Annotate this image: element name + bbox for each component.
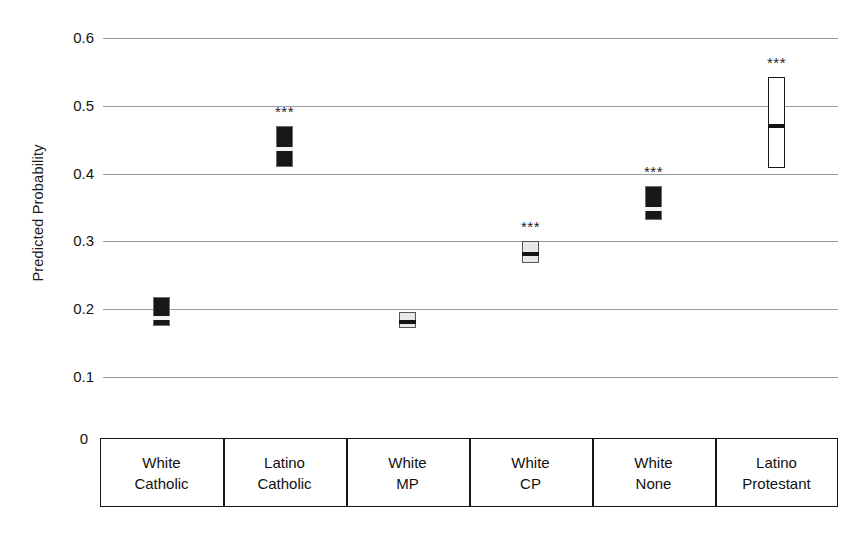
category-divider <box>592 438 594 507</box>
category-labels: WhiteCatholicLatinoCatholicWhiteMPWhiteC… <box>0 0 864 539</box>
category-label-line: White <box>100 452 223 473</box>
category-label: WhiteMP <box>346 452 469 495</box>
category-divider <box>469 438 471 507</box>
category-label: WhiteNone <box>592 452 715 495</box>
category-divider <box>346 438 348 507</box>
category-label-line: Protestant <box>715 473 838 494</box>
category-label-line: Catholic <box>223 473 346 494</box>
category-label-line: White <box>346 452 469 473</box>
category-label: WhiteCatholic <box>100 452 223 495</box>
category-label-line: Catholic <box>100 473 223 494</box>
category-label-line: Latino <box>223 452 346 473</box>
predicted-probability-chart: Predicted Probability 0.60.50.40.30.20.1… <box>0 0 864 539</box>
category-label-line: CP <box>469 473 592 494</box>
category-label-line: None <box>592 473 715 494</box>
category-label-line: Latino <box>715 452 838 473</box>
category-label: LatinoCatholic <box>223 452 346 495</box>
category-label-line: White <box>592 452 715 473</box>
category-divider <box>223 438 225 507</box>
category-divider <box>715 438 717 507</box>
category-label: WhiteCP <box>469 452 592 495</box>
category-label-line: White <box>469 452 592 473</box>
category-label: LatinoProtestant <box>715 452 838 495</box>
category-label-line: MP <box>346 473 469 494</box>
